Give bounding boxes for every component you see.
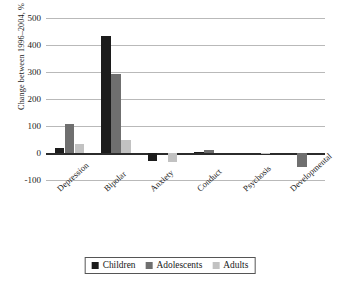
bar [204, 150, 214, 153]
bar-group [232, 18, 279, 180]
bar-chart: Change between 1996–2004, % 500400300200… [0, 0, 340, 287]
y-tick-label: 0 [37, 148, 42, 158]
legend-swatch-icon [145, 262, 152, 269]
y-tick-label: 400 [28, 40, 42, 50]
bar [101, 36, 111, 153]
bar [168, 153, 178, 162]
legend-label: Adults [223, 260, 248, 270]
bar-group [93, 18, 140, 180]
bar [121, 140, 131, 154]
bar [75, 144, 85, 153]
bar-group [46, 18, 93, 180]
plot-area: 5004003002001000-100 [46, 18, 325, 180]
legend-label: Adolescents [156, 260, 202, 270]
legend-swatch-icon [212, 262, 219, 269]
y-tick-label: 200 [28, 94, 42, 104]
bar [261, 153, 271, 154]
legend-label: Children [103, 260, 136, 270]
y-axis-title: Change between 1996–2004, % [17, 0, 26, 132]
bar [111, 74, 121, 153]
legend-swatch-icon [92, 262, 99, 269]
y-tick-label: -100 [25, 175, 42, 185]
legend-item: Children [92, 260, 136, 270]
legend-item: Adolescents [145, 260, 202, 270]
y-tick-label: 500 [28, 13, 42, 23]
y-tick-label: 300 [28, 67, 42, 77]
bar [297, 153, 307, 167]
chart-legend: ChildrenAdolescentsAdults [85, 257, 256, 274]
bar [194, 152, 204, 153]
bar [55, 148, 65, 153]
legend-item: Adults [212, 260, 248, 270]
bar [148, 153, 158, 161]
bar-group [279, 18, 326, 180]
bar-group [139, 18, 186, 180]
bar-group [186, 18, 233, 180]
y-tick-label: 100 [28, 121, 42, 131]
gridline [46, 180, 325, 181]
bar [65, 124, 75, 153]
